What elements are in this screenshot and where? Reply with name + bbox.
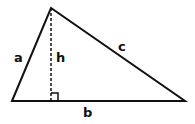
label-c: c: [118, 39, 126, 54]
triangle-outline: [12, 8, 185, 101]
label-h: h: [56, 50, 65, 65]
triangle-diagram: a h c b: [0, 0, 195, 124]
right-angle-marker: [51, 93, 58, 101]
label-a: a: [14, 50, 23, 65]
label-b: b: [83, 105, 92, 120]
